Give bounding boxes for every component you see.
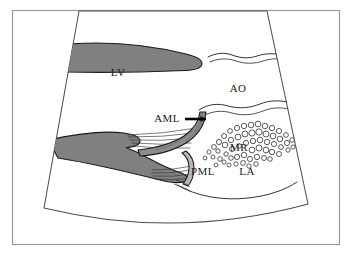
mr-jet-bubble — [222, 134, 227, 139]
mr-jet-bubble — [211, 155, 215, 159]
mr-jet-bubble — [234, 162, 238, 166]
mr-jet-bubble — [271, 141, 276, 146]
mr-jet-bubble — [254, 154, 259, 159]
label-ao: AO — [230, 82, 247, 94]
mr-jet-bubble — [249, 130, 255, 136]
mr-jet-bubble — [248, 122, 254, 128]
mr-jet-bubble — [228, 129, 233, 134]
mr-jet-bubble — [249, 147, 255, 153]
mr-jet-bubble — [269, 125, 274, 130]
mr-jet-bubble — [290, 138, 295, 143]
mr-jet-bubble — [269, 149, 274, 154]
mr-jet-bubble — [277, 152, 282, 157]
mr-jet-bubble — [203, 156, 207, 160]
mr-jet-bubble — [291, 145, 295, 149]
mr-jet-bubble — [234, 154, 239, 159]
echocardiography-diagram: LV AO AML MR PML LA — [0, 0, 352, 255]
mr-jet-bubble — [270, 133, 276, 139]
mr-jet-bubble — [241, 123, 246, 128]
mr-jet-bubble — [222, 142, 228, 148]
label-mr: MR — [230, 141, 248, 153]
label-aml: AML — [154, 112, 180, 124]
mr-jet-bubble — [207, 150, 211, 154]
mr-jet-bubble — [268, 157, 273, 162]
label-pml: PML — [191, 165, 215, 177]
mr-jet-bubble — [222, 160, 226, 164]
mr-jet-bubble — [256, 129, 262, 135]
mr-jet-bubble — [284, 133, 289, 138]
mr-jet-bubble — [263, 147, 269, 153]
label-lv: LV — [111, 66, 125, 78]
mr-jet-bubble — [229, 156, 234, 161]
figure-root: LV AO AML MR PML LA — [0, 0, 352, 255]
mr-jet-bubble — [241, 152, 247, 158]
mr-jet-bubble — [227, 163, 231, 167]
mr-jet-bubble — [247, 156, 252, 161]
mr-jet-bubble — [255, 121, 261, 127]
mr-jet-bubble — [279, 145, 284, 150]
mr-jet-bubble — [262, 156, 267, 161]
mr-jet-bubble — [284, 140, 289, 145]
mr-jet-bubble — [235, 134, 241, 140]
mr-jet-bubble — [286, 148, 290, 152]
mr-jet-bubble — [242, 131, 248, 137]
mr-jet-bubble — [257, 137, 263, 143]
mr-jet-bubble — [224, 152, 228, 156]
mr-jet-bubble — [216, 139, 221, 144]
label-la: LA — [239, 165, 254, 177]
mr-jet-bubble — [277, 136, 283, 142]
mr-jet-bubble — [262, 123, 268, 129]
mr-jet-bubble — [212, 145, 217, 150]
mr-jet-bubble — [263, 131, 269, 137]
mr-jet-bubble — [250, 138, 255, 143]
mr-jet-bubble — [264, 139, 269, 144]
mr-jet-bubble — [276, 128, 281, 133]
mr-jet-bubble — [218, 157, 223, 162]
mr-jet-bubble — [234, 125, 239, 130]
mr-jet-bubble — [216, 149, 220, 153]
mr-jet-bubble — [256, 145, 262, 151]
